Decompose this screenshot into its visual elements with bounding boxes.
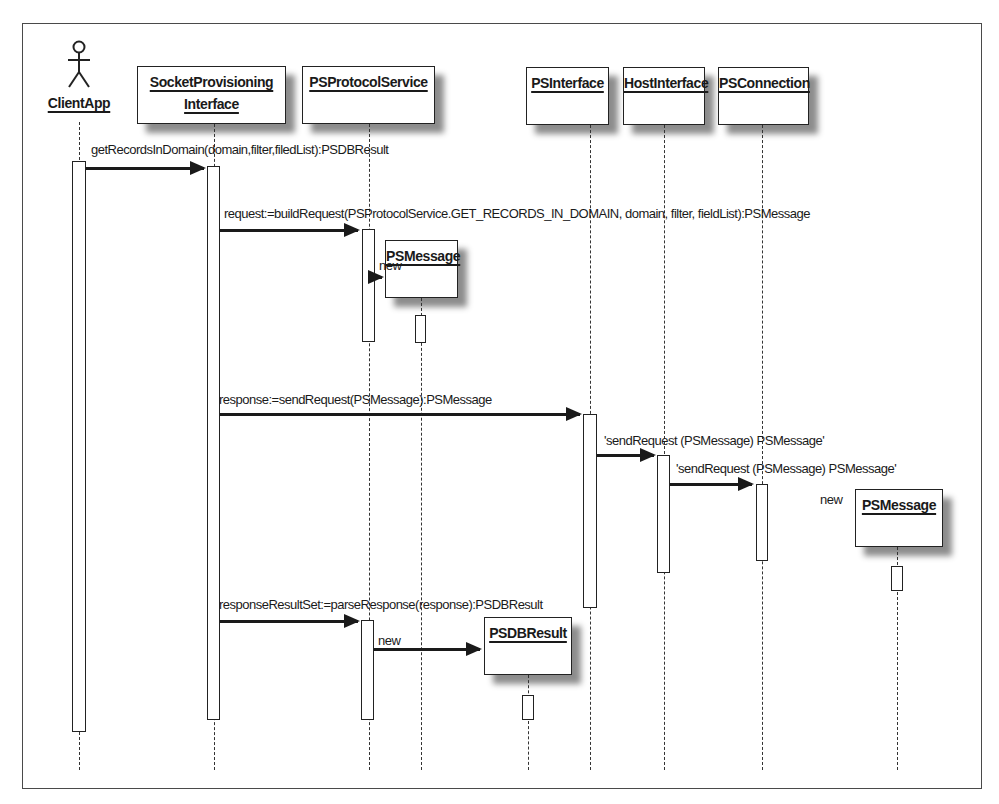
object-hostinterface: HostInterface [623,67,705,125]
object-name: HostInterface [624,75,708,91]
actor-name: ClientApp [44,95,114,111]
message-arrow [597,454,654,457]
object-psinterface: PSInterface [526,67,609,125]
object-psmessage-2: PSMessage [855,489,943,547]
stick-figure-icon [64,40,94,92]
lifeline-psmessage-1 [421,298,422,770]
message-label: responseResultSet:=parseResponse(respons… [219,597,543,612]
object-socket-provisioning-interface: SocketProvisioning Interface [137,66,286,124]
object-name: PSMessage [862,497,936,513]
message-label: 'sendRequest (PSMessage) PSMessage' [604,433,824,448]
message-arrow [220,413,580,416]
message-label: getRecordsInDomain(domain,filter,filedLi… [91,142,388,157]
object-psprotocolservice: PSProtocolService [302,66,435,124]
activation-psmessage-1 [415,315,426,343]
message-arrow [86,167,204,170]
message-arrow [220,229,358,232]
activation-psconnection [756,484,768,561]
activation-psmessage-2 [891,566,903,591]
message-label: response:=sendRequest(PSMessage):PSMessa… [219,392,492,407]
activation-hostinterface [657,455,670,573]
object-name: SocketProvisioning [150,74,274,90]
lifeline-psdbresult [528,675,529,770]
object-name: PSInterface [531,75,604,91]
object-name: Interface [184,96,239,112]
activation-socket-provisioning [207,166,220,720]
actor-clientapp: ClientApp [44,40,114,111]
message-arrow [670,483,752,486]
message-label: 'sendRequest (PSMessage) PSMessage' [676,461,896,476]
object-name: PSProtocolService [309,74,427,90]
message-label: new [378,633,400,648]
activation-psprotocolservice-1 [362,229,375,342]
message-label: new [820,492,842,507]
object-psdbresult: PSDBResult [484,617,572,675]
activation-psdbresult [522,695,534,720]
message-arrow [220,620,358,623]
message-arrow [375,276,382,279]
object-name: PSDBResult [489,625,567,641]
object-psconnection: PSConnection [718,67,809,125]
message-arrow [374,648,480,651]
object-name: PSConnection [719,75,810,91]
message-label: request:=buildRequest(PSProtocolService.… [224,206,810,221]
activation-clientapp [72,161,86,732]
activation-psinterface [583,414,597,608]
activation-psprotocolservice-2 [361,620,374,720]
